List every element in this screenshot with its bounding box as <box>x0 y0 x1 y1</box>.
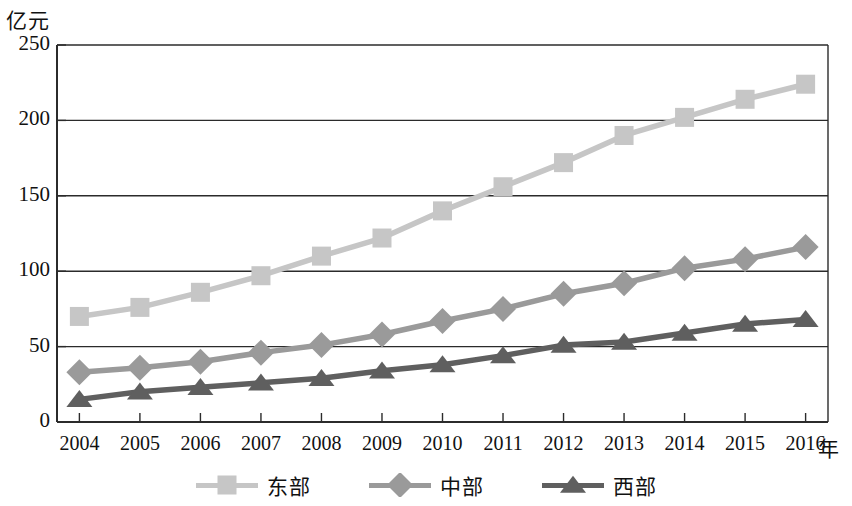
legend-item[interactable]: 中部 <box>369 470 484 500</box>
diamond-marker-icon <box>793 234 819 260</box>
diamond-marker-icon <box>672 255 698 281</box>
square-marker-icon <box>217 476 236 495</box>
triangle-marker-icon <box>560 476 586 493</box>
diamond-marker-icon <box>551 281 577 307</box>
series-1 <box>70 75 815 326</box>
triangle-marker-icon <box>560 473 586 497</box>
diamond-marker-icon <box>248 340 274 366</box>
diamond-marker-icon <box>369 322 395 348</box>
diamond-marker-icon <box>66 359 92 385</box>
square-marker-icon <box>70 307 89 326</box>
square-marker-icon <box>554 153 573 172</box>
line-chart: 亿元 年 050100150200250 2004200520062007200… <box>0 0 852 506</box>
diamond-marker-icon <box>387 473 413 497</box>
diamond-marker-icon <box>611 270 637 296</box>
square-marker-icon <box>433 201 452 220</box>
diamond-marker-icon <box>187 349 213 375</box>
square-marker-icon <box>736 90 755 109</box>
square-marker-icon <box>796 75 815 94</box>
legend-label: 东部 <box>267 470 311 500</box>
square-marker-icon <box>130 298 149 317</box>
diamond-marker-icon <box>430 308 456 334</box>
legend-label: 西部 <box>613 470 657 500</box>
square-marker-icon <box>675 108 694 127</box>
diamond-marker-icon <box>308 332 334 358</box>
legend-swatch <box>542 475 604 495</box>
diamond-marker-icon <box>127 355 153 381</box>
series-line <box>79 84 805 316</box>
diamond-marker-icon <box>490 296 516 322</box>
legend-swatch <box>196 475 258 495</box>
square-marker-icon <box>615 126 634 145</box>
square-marker-icon <box>251 266 270 285</box>
square-marker-icon <box>372 229 391 248</box>
square-marker-icon <box>494 177 513 196</box>
plot-area <box>0 0 852 506</box>
legend-label: 中部 <box>440 470 484 500</box>
diamond-marker-icon <box>732 246 758 272</box>
diamond-marker-icon <box>387 473 413 497</box>
square-marker-icon <box>191 283 210 302</box>
square-marker-icon <box>214 473 240 497</box>
square-marker-icon <box>312 247 331 266</box>
legend-item[interactable]: 东部 <box>196 470 311 500</box>
chart-legend: 东部中部西部 <box>0 470 852 500</box>
legend-swatch <box>369 475 431 495</box>
legend-item[interactable]: 西部 <box>542 470 657 500</box>
